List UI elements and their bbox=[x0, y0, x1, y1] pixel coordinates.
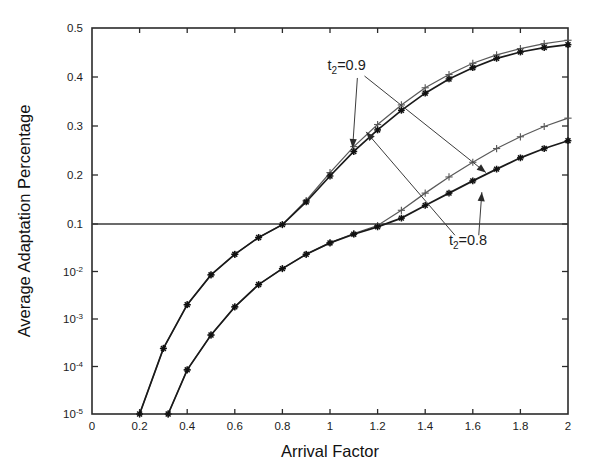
leader-arrowhead-t2-08-to-lower-star bbox=[478, 192, 485, 201]
x-tick-label: 0 bbox=[89, 420, 95, 432]
chart-canvas: 00.20.40.60.811.21.41.61.820.50.40.30.20… bbox=[0, 0, 595, 469]
x-tick-label: 0.8 bbox=[274, 420, 290, 432]
series-line-t2-0-8-upper bbox=[140, 45, 568, 414]
y-tick-label: 0.2 bbox=[67, 169, 83, 181]
x-tick-label: 0.6 bbox=[227, 420, 243, 432]
y-tick-label: 10-4 bbox=[63, 360, 83, 373]
y-tick-label: 10-2 bbox=[63, 265, 83, 278]
y-tick-label: 10-3 bbox=[63, 312, 83, 325]
leader-line-t2-08-to-upper-star bbox=[366, 132, 455, 235]
series-line-t2-0-8-lower bbox=[168, 141, 568, 414]
series-line-t2-0-9-lower bbox=[168, 118, 568, 414]
leader-arrowhead-t2-09-to-lower-plus bbox=[477, 164, 486, 172]
series-line-t2-0-9-upper bbox=[140, 40, 568, 414]
x-tick-label: 1.8 bbox=[512, 420, 528, 432]
x-tick-label: 1.6 bbox=[465, 420, 481, 432]
y-tick-label: 10-5 bbox=[63, 407, 83, 420]
y-tick-label: 0.3 bbox=[67, 120, 83, 132]
y-axis-title: Average Adaptation Percentage bbox=[15, 105, 33, 338]
y-tick-label: 0.5 bbox=[67, 22, 83, 34]
x-tick-label: 1.4 bbox=[417, 420, 434, 432]
annotation-label-t2-09: t2=0.9 bbox=[328, 57, 366, 76]
x-tick-label: 0.4 bbox=[179, 420, 196, 432]
x-tick-label: 0.2 bbox=[132, 420, 148, 432]
x-axis-title: Arrival Factor bbox=[281, 442, 380, 460]
plot-frame bbox=[92, 28, 568, 414]
x-tick-label: 2 bbox=[565, 420, 571, 432]
chart-figure: 00.20.40.60.811.21.41.61.820.50.40.30.20… bbox=[0, 0, 595, 469]
x-tick-label: 1.2 bbox=[370, 420, 386, 432]
leader-line-t2-09-to-upper-star bbox=[353, 78, 358, 148]
x-tick-label: 1 bbox=[327, 420, 333, 432]
y-tick-label: 0.1 bbox=[67, 218, 83, 230]
y-tick-label: 0.4 bbox=[67, 71, 84, 83]
